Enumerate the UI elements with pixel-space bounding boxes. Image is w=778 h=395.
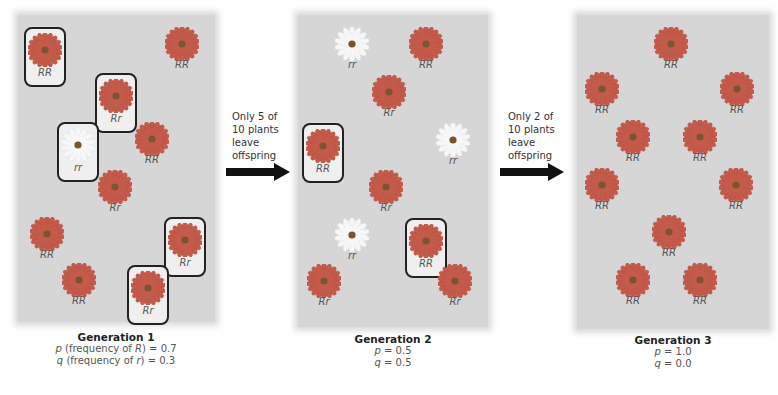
generation-2-caption: Generation 2 p = 0.5 q = 0.5 xyxy=(313,333,473,369)
plant-RR: RR xyxy=(25,215,69,263)
plant-Rr: Rr xyxy=(433,262,477,310)
genotype-label: rr xyxy=(330,250,374,261)
red-flower-icon xyxy=(438,264,472,298)
transition-line: 10 plants xyxy=(508,123,555,136)
red-flower-icon xyxy=(369,170,403,204)
p-frequency: p = 0.5 xyxy=(313,345,473,357)
red-flower-icon xyxy=(683,120,717,154)
red-flower-icon xyxy=(585,72,619,106)
generation-title: Generation 2 xyxy=(313,333,473,345)
transition-line: leave xyxy=(232,136,279,149)
genotype-label: RR xyxy=(611,152,655,163)
genotype-label: RR xyxy=(649,59,693,70)
red-flower-icon xyxy=(616,120,650,154)
red-flower-icon xyxy=(306,129,340,163)
plant-RR: RR xyxy=(611,118,655,166)
red-flower-icon xyxy=(719,168,753,202)
genotype-label: RR xyxy=(25,249,69,260)
genotype-label: Rr xyxy=(364,202,408,213)
transition-1-label: Only 5 of 10 plants leave offspring xyxy=(232,110,279,162)
plant-RR: RR xyxy=(647,213,691,261)
selected-plant-Rr: Rr xyxy=(164,217,206,277)
red-flower-icon xyxy=(62,263,96,297)
genotype-label: RR xyxy=(580,104,624,115)
plant-RR: RR xyxy=(678,118,722,166)
genotype-label: RR xyxy=(714,200,758,211)
transition-line: offspring xyxy=(508,149,555,162)
red-flower-icon xyxy=(98,170,132,204)
plant-RR: RR xyxy=(714,166,758,214)
generation-title: Generation 3 xyxy=(593,334,753,346)
red-flower-icon xyxy=(683,263,717,297)
genotype-label: rr xyxy=(431,155,475,166)
genotype-label: Rr xyxy=(302,296,346,307)
transition-2-label: Only 2 of 10 plants leave offspring xyxy=(508,110,555,162)
generation-3-caption: Generation 3 p = 1.0 q = 0.0 xyxy=(593,334,753,370)
genotype-label: Rr xyxy=(433,296,477,307)
genotype-label: RR xyxy=(57,295,101,306)
transition-line: Only 5 of xyxy=(232,110,279,123)
plant-RR: RR xyxy=(404,25,448,73)
plant-Rr: Rr xyxy=(364,168,408,216)
genotype-label: rr xyxy=(59,162,97,173)
p-frequency: p (frequency of R) = 0.7 xyxy=(36,343,196,355)
genotype-label: Rr xyxy=(93,202,137,213)
red-flower-icon xyxy=(99,79,133,113)
red-flower-icon xyxy=(720,72,754,106)
red-flower-icon xyxy=(165,27,199,61)
genotype-label: RR xyxy=(160,59,204,70)
genotype-label: RR xyxy=(580,200,624,211)
plant-Rr: Rr xyxy=(93,168,137,216)
genotype-label: RR xyxy=(304,163,342,174)
genotype-label: RR xyxy=(678,295,722,306)
red-flower-icon xyxy=(168,223,202,257)
p-frequency: p = 1.0 xyxy=(593,346,753,358)
red-flower-icon xyxy=(307,264,341,298)
genotype-label: RR xyxy=(130,154,174,165)
red-flower-icon xyxy=(652,215,686,249)
q-frequency: q = 0.5 xyxy=(313,357,473,369)
red-flower-icon xyxy=(135,122,169,156)
plant-RR: RR xyxy=(580,166,624,214)
genotype-label: RR xyxy=(26,67,64,78)
genotype-label: RR xyxy=(715,104,759,115)
plant-Rr: Rr xyxy=(367,73,411,121)
genotype-label: RR xyxy=(678,152,722,163)
transition-line: Only 2 of xyxy=(508,110,555,123)
generation-title: Generation 1 xyxy=(36,331,196,343)
genotype-label: RR xyxy=(611,295,655,306)
plant-RR: RR xyxy=(57,261,101,309)
plant-RR: RR xyxy=(160,25,204,73)
transition-line: offspring xyxy=(232,149,279,162)
q-frequency: q = 0.0 xyxy=(593,358,753,370)
red-flower-icon xyxy=(372,75,406,109)
selected-plant-RR: RR xyxy=(302,123,344,183)
red-flower-icon xyxy=(585,168,619,202)
plant-Rr: Rr xyxy=(302,262,346,310)
generation-1-caption: Generation 1 p (frequency of R) = 0.7 q … xyxy=(36,331,196,367)
plant-RR: RR xyxy=(130,120,174,168)
genotype-label: RR xyxy=(404,59,448,70)
plant-RR: RR xyxy=(678,261,722,309)
white-flower-icon xyxy=(335,218,369,252)
red-flower-icon xyxy=(616,263,650,297)
plant-RR: RR xyxy=(715,70,759,118)
red-flower-icon xyxy=(409,27,443,61)
genotype-label: RR xyxy=(647,247,691,258)
selected-plant-RR: RR xyxy=(24,27,66,87)
red-flower-icon xyxy=(131,271,165,305)
white-flower-icon xyxy=(436,123,470,157)
transition-line: 10 plants xyxy=(232,123,279,136)
white-flower-icon xyxy=(335,27,369,61)
plant-RR: RR xyxy=(649,25,693,73)
plant-rr: rr xyxy=(330,216,374,264)
q-frequency: q (frequency of r) = 0.3 xyxy=(36,355,196,367)
genotype-label: rr xyxy=(330,59,374,70)
plant-RR: RR xyxy=(611,261,655,309)
right-arrow-icon xyxy=(500,163,564,181)
genotype-label: Rr xyxy=(367,107,411,118)
plant-RR: RR xyxy=(580,70,624,118)
red-flower-icon xyxy=(654,27,688,61)
selected-plant-Rr: Rr xyxy=(127,265,169,325)
genotype-label: Rr xyxy=(166,257,204,268)
